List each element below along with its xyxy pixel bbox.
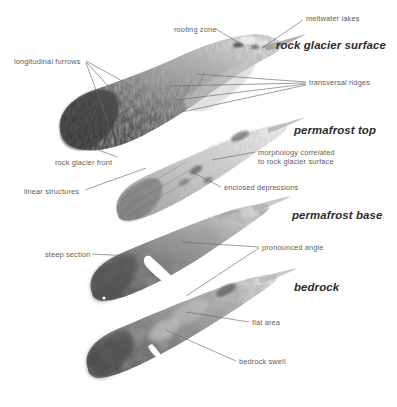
- annotation-rooting-zone: rooting zone: [174, 25, 216, 34]
- annotation-longitudinal-furrows: longitudinal furrows: [14, 57, 81, 66]
- annotation-transversal-ridges: transversal ridges: [309, 78, 370, 87]
- annotation-flat-area: flat area: [252, 318, 280, 327]
- annotation-rock-glacier-front: rock glacier front: [55, 158, 112, 167]
- annotation-steep-section: steep section: [45, 250, 90, 259]
- annotation-linear-structures: linear structures: [24, 187, 79, 196]
- layer-title-permafrost-top: permafrost top: [294, 124, 376, 136]
- layer-title-bedrock: bedrock: [294, 281, 339, 293]
- layer-title-rock-glacier-surface: rock glacier surface: [276, 39, 386, 51]
- leader-rock-glacier-front: [93, 148, 117, 157]
- annotation-morphology-correlated-line1: morphology correlated: [258, 148, 335, 157]
- annotation-pronounced-angle: pronounced angle: [262, 243, 324, 252]
- annotation-enclosed-depressions: enclosed depressions: [224, 183, 298, 192]
- annotation-morphology-correlated-line2: to rock glacier surface: [258, 157, 334, 166]
- annotation-meltwater-lakes: meltwater lakes: [306, 14, 360, 23]
- layer-title-permafrost-base: permafrost base: [292, 209, 382, 221]
- annotation-bedrock-swell: bedrock swell: [239, 357, 286, 366]
- rock-glacier-layer-figure: rock glacier surface permafrost top perm…: [0, 0, 397, 407]
